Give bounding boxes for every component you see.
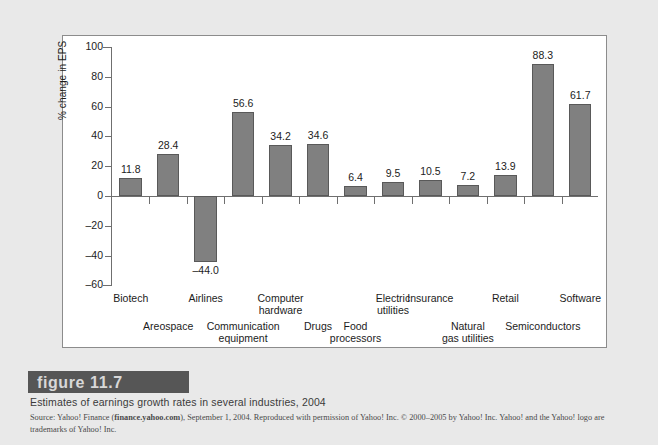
bar: [344, 186, 366, 196]
category-label: Food processors: [305, 320, 406, 344]
bar: [157, 154, 179, 196]
bar: [269, 145, 291, 196]
bar: [532, 64, 554, 196]
x-tick: [262, 196, 263, 204]
source-link: finance.yahoo.com: [114, 413, 180, 422]
source-prefix: Source: Yahoo! Finance (: [30, 413, 114, 422]
bar-value-label: 34.2: [262, 130, 299, 142]
x-tick: [187, 196, 188, 204]
y-tick-label: 80: [67, 70, 103, 82]
bar-value-label: 7.2: [449, 170, 486, 182]
bar: [194, 196, 216, 262]
y-tick: [105, 256, 112, 257]
x-tick: [149, 196, 150, 204]
x-tick: [299, 196, 300, 204]
bar: [382, 182, 404, 196]
figure-number-label: figure 11.7: [37, 374, 123, 392]
y-tick-label: –20: [67, 219, 103, 231]
x-tick: [449, 196, 450, 204]
y-tick: [105, 136, 112, 137]
y-tick: [103, 285, 112, 286]
category-label: Computer hardware: [230, 292, 331, 316]
zero-baseline: [112, 196, 598, 197]
bar: [419, 180, 441, 196]
bar: [232, 112, 254, 196]
y-tick: [103, 47, 112, 48]
bar-value-label: 28.4: [149, 139, 186, 151]
bar: [569, 104, 591, 196]
x-tick: [337, 196, 338, 204]
bar: [494, 175, 516, 196]
y-tick-label: –40: [67, 249, 103, 261]
bar-value-label: 61.7: [562, 89, 599, 101]
y-tick: [105, 196, 112, 197]
bar-value-label: 56.6: [224, 97, 261, 109]
bar-value-label: 13.9: [487, 160, 524, 172]
y-tick-label: 20: [67, 159, 103, 171]
figure-number-band: figure 11.7: [28, 371, 189, 393]
y-tick: [105, 107, 112, 108]
x-tick: [562, 196, 563, 204]
bar-value-label: 88.3: [524, 49, 561, 61]
bar: [307, 144, 329, 196]
x-tick: [412, 196, 413, 204]
bar-value-label: 34.6: [299, 129, 336, 141]
y-tick-label: –60: [67, 278, 103, 290]
x-tick: [487, 196, 488, 204]
bar-value-label: 11.8: [112, 163, 149, 175]
x-tick: [524, 196, 525, 204]
y-tick-label: 40: [67, 129, 103, 141]
x-tick: [224, 196, 225, 204]
category-label: Semiconductors: [492, 320, 593, 332]
bar-value-label: 6.4: [337, 171, 374, 183]
category-label: Software: [530, 292, 631, 304]
y-tick: [105, 226, 112, 227]
chart-plot-area: % change in EPS 100806040200–20–40–60 11…: [62, 35, 607, 348]
y-tick: [105, 77, 112, 78]
y-tick-label: 100: [67, 40, 103, 52]
bar-value-label: –44.0: [187, 264, 224, 276]
figure-source-note: Source: Yahoo! Finance (finance.yahoo.co…: [30, 412, 630, 435]
bar-value-label: 9.5: [374, 167, 411, 179]
bar: [457, 185, 479, 196]
bar-value-label: 10.5: [412, 165, 449, 177]
y-tick-label: 60: [67, 100, 103, 112]
bar: [119, 178, 141, 196]
figure-caption: Estimates of earnings growth rates in se…: [30, 396, 326, 408]
y-tick: [105, 166, 112, 167]
x-tick: [374, 196, 375, 204]
y-tick-label: 0: [67, 189, 103, 201]
